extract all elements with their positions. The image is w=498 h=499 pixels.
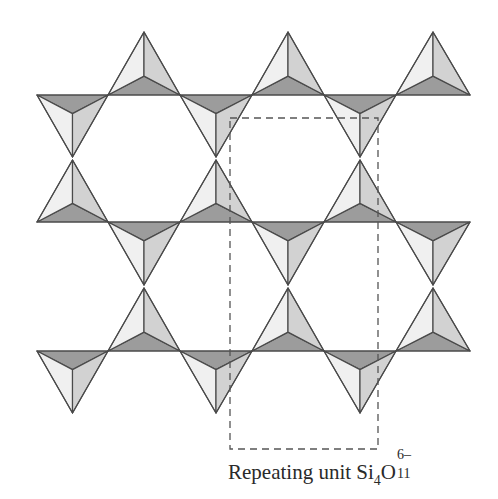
formula-o-indices: 6–11 (396, 458, 418, 479)
formula-o: O (381, 460, 396, 484)
caption-text: Repeating unit (228, 460, 356, 484)
tetrahedra-layer (37, 32, 470, 413)
silicate-chain-diagram (0, 0, 498, 499)
formula-si-subscript: 4 (374, 473, 381, 488)
formula-si: Si (356, 460, 374, 484)
formula-charge: 6– (397, 448, 411, 462)
repeating-unit-caption: Repeating unit Si4O6–11 (228, 458, 418, 483)
chemical-formula: Si4O6–11 (356, 458, 418, 483)
formula-o-subscript: 11 (397, 467, 410, 481)
